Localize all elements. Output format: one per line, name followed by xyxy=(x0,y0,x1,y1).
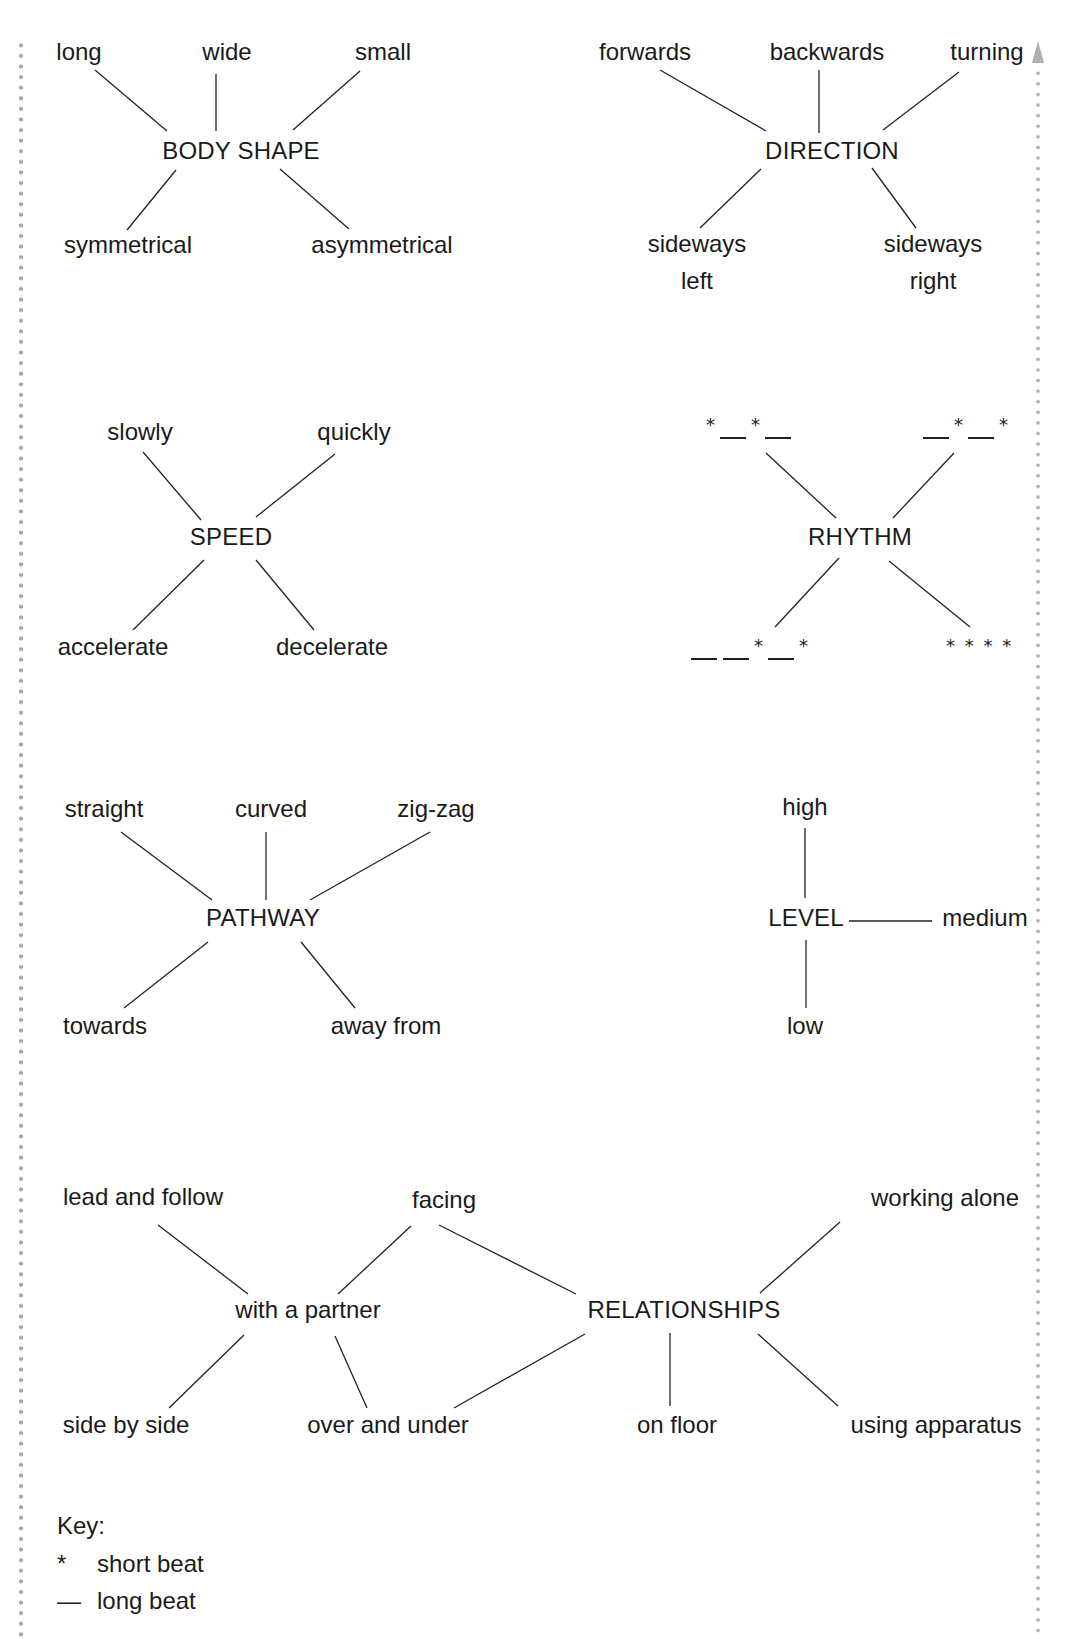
node-sideways-right-2: right xyxy=(910,267,957,295)
node-sideways-right-1: sideways xyxy=(884,230,983,258)
key-entry-short-beat: *short beat xyxy=(57,1550,204,1578)
node-working-alone: working alone xyxy=(871,1184,1019,1212)
rhythm-pattern-top-right: ** xyxy=(920,424,1010,445)
dash-symbol: — xyxy=(57,1587,97,1615)
hub-relationships: RELATIONSHIPS xyxy=(588,1296,781,1324)
node-accelerate: accelerate xyxy=(58,633,169,661)
key-label-long-beat: long beat xyxy=(97,1587,196,1614)
node-on-floor: on floor xyxy=(637,1411,717,1439)
node-decelerate: decelerate xyxy=(276,633,388,661)
node-facing: facing xyxy=(412,1186,476,1214)
node-symmetrical: symmetrical xyxy=(64,231,192,259)
node-away-from: away from xyxy=(331,1012,442,1040)
hub-body-shape: BODY SHAPE xyxy=(162,137,320,165)
node-backwards: backwards xyxy=(770,38,885,66)
hub-pathway: PATHWAY xyxy=(206,904,320,932)
node-towards: towards xyxy=(63,1012,147,1040)
hub-rhythm: RHYTHM xyxy=(808,523,912,551)
node-turning: turning xyxy=(950,38,1023,66)
node-low: low xyxy=(787,1012,823,1040)
node-small: small xyxy=(355,38,411,66)
node-sideways-left-1: sideways xyxy=(648,230,747,258)
node-curved: curved xyxy=(235,795,307,823)
hub-speed: SPEED xyxy=(190,523,272,551)
node-quickly: quickly xyxy=(317,418,390,446)
node-asymmetrical: asymmetrical xyxy=(311,231,452,259)
node-zig-zag: zig-zag xyxy=(397,795,474,823)
key-label-short-beat: short beat xyxy=(97,1550,204,1577)
node-using-apparatus: using apparatus xyxy=(851,1411,1022,1439)
rhythm-pattern-bottom-left: ** xyxy=(688,645,810,666)
key-entry-long-beat: —long beat xyxy=(57,1587,196,1615)
node-sideways-left-2: left xyxy=(681,267,713,295)
node-straight: straight xyxy=(65,795,144,823)
hub-direction: DIRECTION xyxy=(765,137,899,165)
node-slowly: slowly xyxy=(107,418,172,446)
sub-hub-with-a-partner: with a partner xyxy=(235,1296,380,1324)
node-lead-and-follow: lead and follow xyxy=(63,1183,223,1211)
node-over-and-under: over and under xyxy=(307,1411,468,1439)
node-side-by-side: side by side xyxy=(63,1411,190,1439)
key-title: Key: xyxy=(57,1512,105,1540)
node-long: long xyxy=(56,38,101,66)
node-medium: medium xyxy=(942,904,1027,932)
node-high: high xyxy=(782,793,827,821)
node-wide: wide xyxy=(202,38,251,66)
node-forwards: forwards xyxy=(599,38,691,66)
rhythm-pattern-bottom-right: * * * * xyxy=(944,645,1013,666)
hub-level: LEVEL xyxy=(768,904,844,932)
rhythm-pattern-top-left: ** xyxy=(704,424,794,445)
asterisk-symbol: * xyxy=(57,1550,97,1578)
